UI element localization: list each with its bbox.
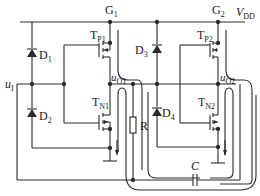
label-tn2: TN2 — [198, 96, 215, 111]
diode-d4 — [152, 84, 162, 147]
label-d3: D3 — [135, 44, 148, 59]
capacitor-c — [133, 84, 240, 186]
diode-d2 — [27, 84, 37, 148]
label-tp1: TP1 — [90, 29, 106, 44]
label-vdd: VDD — [236, 6, 255, 21]
label-d2: D2 — [39, 110, 52, 125]
diode-d1 — [27, 22, 37, 84]
label-ui: uI — [5, 78, 14, 93]
label-g2: G2 — [212, 4, 225, 19]
label-d4: D4 — [162, 107, 175, 122]
resistor-r — [130, 84, 136, 182]
circuit-diagram: G1 G2 VDD D1 D2 D3 D4 TP1 TN1 TP2 TN2 uI… — [0, 0, 260, 196]
label-uo2: uO2 — [220, 72, 235, 86]
circuit-wiring — [0, 0, 260, 196]
label-g1: G1 — [105, 4, 118, 19]
label-tp2: TP2 — [197, 29, 213, 44]
label-tn1: TN1 — [92, 96, 109, 111]
label-d1: D1 — [39, 49, 52, 64]
label-c: C — [191, 160, 199, 172]
label-uo1: uO1 — [111, 72, 126, 86]
diode-d3 — [152, 20, 162, 84]
label-r: R — [140, 120, 148, 132]
